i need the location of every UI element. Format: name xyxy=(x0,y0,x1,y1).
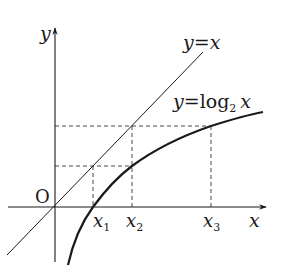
y-axis-label: y xyxy=(39,22,51,44)
log2-curve xyxy=(68,112,263,265)
log2-curve-label: y=log2x xyxy=(172,90,251,115)
origin-label: O xyxy=(35,186,50,207)
x1-label: x1 xyxy=(93,210,110,234)
x3-label: x3 xyxy=(203,210,220,234)
log-vs-identity-diagram: y x O y=x y=log2x x1 x2 x3 xyxy=(0,0,285,280)
x-axis-label: x xyxy=(249,209,260,231)
x2-label: x2 xyxy=(126,210,143,234)
identity-line-label: y=x xyxy=(182,31,221,53)
